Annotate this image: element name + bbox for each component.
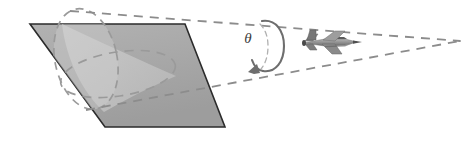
figure-canvas: θ xyxy=(0,0,470,143)
theta-angle-label: θ xyxy=(238,31,258,46)
geometry-illustration xyxy=(0,0,470,143)
aircraft-icon xyxy=(302,30,362,54)
cone-apex-vertex xyxy=(459,40,461,42)
rotation-arrow xyxy=(248,21,284,74)
